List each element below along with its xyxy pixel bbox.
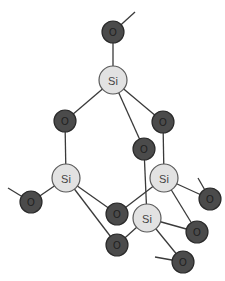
atom-label: O — [113, 209, 121, 220]
oxygen-atom-o4: O — [133, 138, 155, 160]
atom-label: O — [193, 227, 201, 238]
atom-label: O — [159, 117, 167, 128]
oxygen-atom-o2: O — [54, 110, 76, 132]
atom-label: Si — [142, 213, 152, 225]
atoms-layer: OSiOOOSiSiOOOSiOOO — [20, 21, 221, 273]
silicon-atom-si1: Si — [99, 66, 127, 94]
oxygen-atom-o9: O — [106, 234, 128, 256]
atom-label: O — [179, 257, 187, 268]
silicate-cluster-diagram: OSiOOOSiSiOOOSiOOO — [0, 0, 225, 281]
atom-label: O — [206, 194, 214, 205]
atom-label: Si — [61, 173, 71, 185]
atom-label: O — [140, 144, 148, 155]
atom-label: O — [109, 27, 117, 38]
atom-label: O — [27, 197, 35, 208]
atom-label: O — [113, 240, 121, 251]
oxygen-atom-o10: O — [172, 251, 194, 273]
oxygen-atom-o7: O — [106, 203, 128, 225]
atom-label: O — [61, 116, 69, 127]
oxygen-atom-o1: O — [102, 21, 124, 43]
oxygen-atom-o3: O — [152, 111, 174, 133]
oxygen-atom-o6: O — [199, 188, 221, 210]
atom-label: Si — [108, 75, 118, 87]
silicon-atom-si4: Si — [133, 204, 161, 232]
bonds-layer — [8, 12, 210, 262]
silicon-atom-si2: Si — [52, 164, 80, 192]
oxygen-atom-o8: O — [186, 221, 208, 243]
atom-label: Si — [159, 173, 169, 185]
silicon-atom-si3: Si — [150, 164, 178, 192]
oxygen-atom-o5: O — [20, 191, 42, 213]
